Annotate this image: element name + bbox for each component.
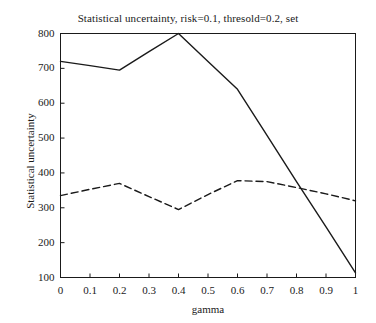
y-axis-ticks — [61, 34, 65, 278]
x-axis-ticks — [61, 274, 356, 278]
plot-area — [0, 0, 376, 323]
y-axis-label: Statistical uncertainty — [24, 81, 36, 241]
x-axis-label: gamma — [60, 303, 356, 315]
series-line-solid-series — [61, 34, 356, 273]
x-tick-label: 1 — [336, 285, 376, 296]
chart-figure: Statistical uncertainty, risk=0.1, thres… — [0, 0, 376, 323]
y-tick-label: 800 — [21, 28, 55, 39]
y-tick-label: 100 — [21, 272, 55, 283]
series-layer — [61, 34, 356, 273]
y-tick-label: 700 — [21, 62, 55, 73]
axes-frame — [61, 34, 356, 278]
